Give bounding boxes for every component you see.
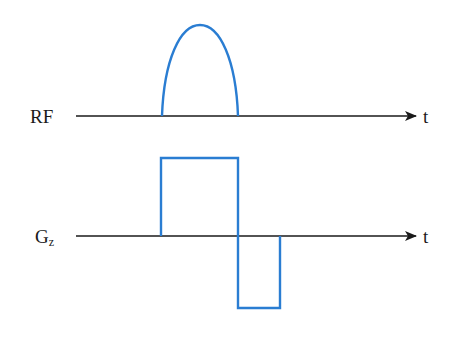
rf-pulse-waveform [162, 25, 238, 116]
gz-axis-t-label: t [423, 226, 429, 247]
gz-gradient-waveform [161, 158, 280, 308]
rf-label: RF [30, 106, 53, 127]
pulse-sequence-diagram: RF t Gz t [0, 0, 459, 339]
rf-row: RF t [30, 25, 429, 127]
gz-label: Gz [35, 226, 54, 249]
gz-row: Gz t [35, 158, 429, 308]
rf-axis-t-label: t [423, 106, 429, 127]
